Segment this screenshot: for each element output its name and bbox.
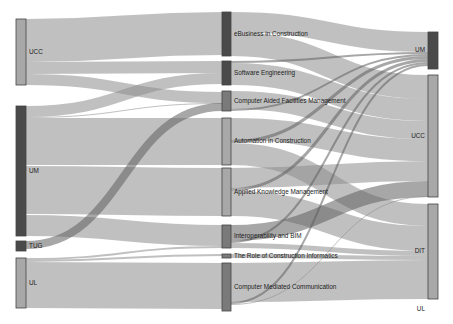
node-label: TUG	[29, 242, 43, 249]
node-bar[interactable]	[222, 168, 231, 216]
node-label: Interoperability and BIM	[234, 232, 302, 240]
node-bar[interactable]	[222, 254, 231, 258]
node-bar[interactable]	[222, 225, 231, 248]
flow-link[interactable]	[26, 190, 222, 192]
node-bar[interactable]	[222, 91, 231, 111]
node-the-role-of-construction-informatics[interactable]: The Role of Construction Informatics	[222, 252, 338, 259]
node-label: UL	[417, 305, 426, 312]
node-bar[interactable]	[428, 32, 438, 69]
node-bar[interactable]	[222, 12, 231, 56]
node-ul[interactable]: UL	[417, 305, 426, 312]
node-bar[interactable]	[16, 241, 26, 251]
node-bar[interactable]	[428, 75, 438, 197]
node-label: DIT	[415, 247, 425, 254]
node-label: The Role of Construction Informatics	[234, 252, 338, 259]
flow-link[interactable]	[26, 67, 222, 68]
flow-link[interactable]	[26, 34, 222, 41]
node-label: Software Engineering	[234, 69, 296, 77]
node-label: UM	[415, 46, 425, 53]
node-label: UL	[29, 279, 38, 286]
sankey-diagram: UCCUMTUGULeBusiness in ConstructionSoftw…	[0, 0, 453, 324]
node-label: Automation in Construction	[234, 137, 311, 144]
flow-link[interactable]	[231, 171, 428, 178]
node-bar[interactable]	[16, 106, 26, 236]
node-label: eBusiness in Construction	[234, 30, 308, 37]
node-bar[interactable]	[16, 19, 26, 85]
node-bar[interactable]	[222, 61, 231, 85]
node-label: Computer Aided Facilities Management	[234, 97, 346, 105]
node-bar[interactable]	[16, 258, 26, 308]
node-bar[interactable]	[428, 204, 438, 299]
node-label: UCC	[29, 48, 43, 55]
node-bar[interactable]	[222, 118, 231, 165]
node-label: UM	[29, 167, 39, 174]
node-bar[interactable]	[222, 263, 231, 311]
flow-link[interactable]	[26, 285, 222, 286]
flow-link[interactable]	[26, 226, 222, 236]
node-label: Computer Mediated Communication	[234, 283, 337, 291]
node-label: Applied Knowledge Management	[234, 188, 328, 196]
node-tug[interactable]: TUG	[16, 241, 43, 251]
node-label: UCC	[411, 132, 425, 139]
